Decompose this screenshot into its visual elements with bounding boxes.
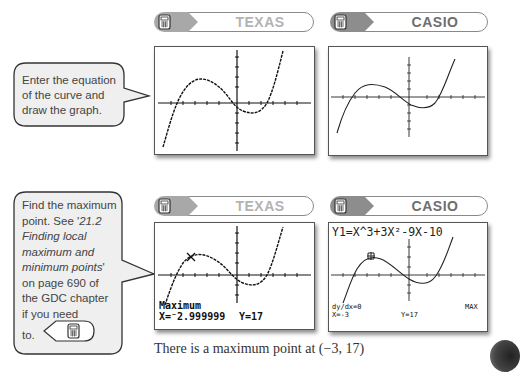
lcd-y-value: Y=17 — [401, 311, 418, 319]
reference-title: minimum points — [22, 261, 103, 273]
callout-line: on page 690 of — [22, 276, 126, 292]
callout-line: Find the maximum — [22, 198, 126, 214]
reference-title: maximum and — [22, 246, 94, 258]
lcd-x-value: X=-3 — [332, 311, 349, 319]
gdc-reference-button[interactable] — [42, 320, 96, 342]
callout-line: point. See '21.2 — [22, 214, 126, 230]
cubic-graph — [155, 47, 314, 154]
callout-line: Enter the equation — [22, 73, 132, 88]
casio-graph-screen — [328, 46, 488, 156]
calculator-icon — [159, 15, 170, 29]
lcd-mode: MAX — [465, 303, 478, 311]
page-edge-tab — [490, 340, 520, 372]
trace-cursor-icon — [367, 252, 375, 260]
calculator-badge — [154, 196, 200, 216]
callout-line: minimum points' — [22, 260, 126, 276]
result-caption: There is a maximum point at (−3, 17) — [154, 341, 364, 357]
texas-label: TEXAS — [214, 198, 306, 214]
texas-label: TEXAS — [214, 14, 306, 30]
trace-cursor-icon — [187, 253, 195, 261]
casio-header: CASIO — [330, 12, 488, 32]
instruction-callout-maximum: Find the maximum point. See '21.2 Findin… — [12, 190, 156, 358]
lcd-label-maximum: Maximum — [159, 301, 201, 311]
callout-line: Finding local — [22, 229, 126, 245]
instruction-callout-draw: Enter the equation of the curve and draw… — [12, 60, 152, 130]
calculator-badge — [330, 12, 376, 32]
reference-title: Finding local — [22, 230, 87, 242]
lcd-equation: Y1=X^3+3X²-9X-10 — [332, 226, 443, 238]
calculator-icon — [335, 15, 346, 29]
lcd-y-value: Y=17 — [239, 312, 263, 322]
calculator-icon — [335, 199, 346, 213]
casio-maximum-screen: Y1=X^3+3X²-9X-10 dy/dx=0 X=-3 Y=17 MAX — [328, 222, 488, 332]
calculator-icon — [68, 324, 79, 338]
lcd-derivative: dy/dx=0 — [332, 303, 362, 311]
casio-label: CASIO — [390, 14, 480, 30]
calculator-badge — [330, 196, 376, 216]
callout-line: draw the graph. — [22, 103, 132, 118]
calculator-badge — [154, 12, 200, 32]
callout-line: of the curve and — [22, 88, 132, 103]
texas-header: TEXAS — [154, 196, 314, 216]
cubic-graph — [329, 47, 487, 155]
calculator-icon — [159, 199, 170, 213]
texas-graph-screen — [154, 46, 315, 155]
lcd-x-value: X=⁻2.999999 — [159, 312, 225, 322]
texas-maximum-screen: Maximum X=⁻2.999999 Y=17 — [154, 222, 315, 330]
texas-header: TEXAS — [154, 12, 314, 32]
callout-line: maximum and — [22, 245, 126, 261]
callout-line: the GDC chapter — [22, 291, 126, 307]
casio-label: CASIO — [390, 198, 480, 214]
casio-header: CASIO — [330, 196, 488, 216]
